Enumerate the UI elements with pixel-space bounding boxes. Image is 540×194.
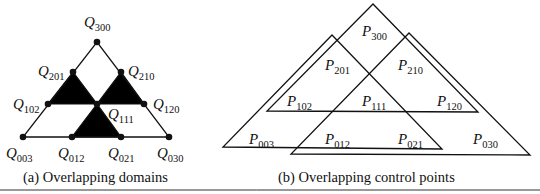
label-p012: P012 bbox=[324, 131, 350, 150]
point-q210 bbox=[118, 69, 125, 76]
overlapping-triangles bbox=[223, 4, 530, 155]
label-q300: Q300 bbox=[84, 14, 111, 33]
label-q030: Q030 bbox=[157, 145, 184, 164]
panel-b-overlapping-control-points: P300P201P210P102P111P120P003P012P021P030… bbox=[223, 4, 530, 186]
point-q111 bbox=[94, 101, 101, 108]
caption-a: (a) Overlapping domains bbox=[23, 169, 168, 186]
label-p111: P111 bbox=[361, 93, 386, 112]
label-q021: Q021 bbox=[108, 145, 135, 164]
label-p102: P102 bbox=[286, 93, 312, 112]
panel-a-overlapping-domains: Q300Q201Q210Q102Q111Q120Q003Q012Q021Q030… bbox=[6, 14, 184, 186]
point-q003 bbox=[20, 134, 27, 141]
caption-b: (b) Overlapping control points bbox=[278, 169, 455, 186]
control-point-labels: P300P201P210P102P111P120P003P012P021P030 bbox=[248, 23, 498, 150]
label-q003: Q003 bbox=[6, 145, 33, 164]
label-q120: Q120 bbox=[153, 96, 180, 115]
label-p021: P021 bbox=[397, 131, 423, 150]
point-q012 bbox=[69, 134, 76, 141]
label-p201: P201 bbox=[324, 57, 350, 76]
label-p030: P030 bbox=[472, 131, 498, 150]
label-q012: Q012 bbox=[58, 145, 85, 164]
point-q021 bbox=[118, 134, 125, 141]
point-q102 bbox=[45, 101, 52, 108]
point-q300 bbox=[94, 39, 101, 46]
top-triangle bbox=[267, 4, 478, 112]
label-q201: Q201 bbox=[38, 63, 65, 82]
label-p300: P300 bbox=[361, 23, 387, 42]
label-q210: Q210 bbox=[128, 63, 155, 82]
point-q120 bbox=[141, 101, 148, 108]
label-q111: Q111 bbox=[108, 106, 134, 125]
point-q030 bbox=[166, 134, 173, 141]
point-labels: Q300Q201Q210Q102Q111Q120Q003Q012Q021Q030 bbox=[6, 14, 184, 164]
label-p210: P210 bbox=[397, 57, 423, 76]
point-q201 bbox=[70, 69, 77, 76]
label-p120: P120 bbox=[436, 93, 462, 112]
figure: Q300Q201Q210Q102Q111Q120Q003Q012Q021Q030… bbox=[0, 0, 540, 194]
label-q102: Q102 bbox=[13, 96, 40, 115]
